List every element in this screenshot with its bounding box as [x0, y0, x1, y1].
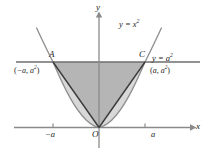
x-axis-label: x: [196, 122, 200, 131]
parabola-figure: y x y = x2 y = a2 A C (−a, a2) (a, a2) O…: [0, 0, 208, 152]
coord-c-values: a, a: [153, 66, 165, 75]
curve-equation-label: y = x2: [119, 20, 139, 29]
coord-c-close-paren: ): [167, 66, 170, 75]
point-c-label: C: [139, 50, 145, 59]
y-axis-arrowhead: [96, 12, 102, 18]
y-axis-label: y: [96, 3, 100, 12]
curve-equation-exponent: 2: [137, 18, 140, 24]
point-a-label: A: [49, 50, 55, 59]
coord-a-close-paren: ): [37, 66, 40, 75]
figure-canvas: [0, 0, 208, 152]
curve-equation-base: y = x: [119, 19, 137, 29]
point-c-coordinates: (a, a2): [150, 67, 170, 75]
line-equation-base: y = a: [152, 53, 170, 63]
line-equation-exponent: 2: [170, 52, 173, 58]
x-tick-label-positive-a: a: [151, 130, 155, 139]
line-equation-label: y = a2: [152, 54, 173, 63]
x-tick-label-negative-a: −a: [45, 130, 55, 139]
coord-a-values: −a, a: [17, 66, 34, 75]
point-a-coordinates: (−a, a2): [14, 67, 39, 75]
origin-label: O: [92, 130, 99, 139]
